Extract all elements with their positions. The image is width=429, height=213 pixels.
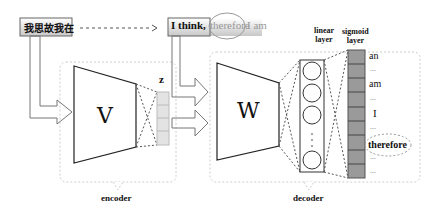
linear-label-line2: layer: [314, 35, 334, 44]
vocab-output-7: ...: [370, 152, 376, 161]
vocab-output-2: am: [369, 78, 381, 89]
output-prefix: I think,: [171, 19, 206, 31]
linear-layer: [300, 60, 324, 172]
vocab-output-4: I: [373, 107, 377, 119]
latent-vector-z: [157, 92, 169, 145]
sigmoid-label-line1: sigmoid: [342, 27, 369, 36]
sigmoid-layer-label: sigmoid layer: [342, 27, 369, 45]
output-suffix: I am: [247, 19, 267, 31]
latent-z-label: z: [159, 73, 164, 85]
linear-layer-label: linear layer: [314, 26, 334, 44]
encoder-label: encoder: [101, 193, 132, 203]
input-text: 我思故我在: [24, 20, 74, 35]
vocab-output-8: ...: [370, 166, 376, 175]
vocab-output-5: ...: [370, 122, 376, 131]
matrix-v: V: [97, 103, 113, 128]
vocab-output-0: an: [369, 50, 378, 61]
matrix-w: W: [237, 98, 260, 123]
decoder-label: decoder: [293, 193, 324, 203]
vocab-output-3: ...: [370, 93, 376, 102]
sigmoid-label-line2: layer: [342, 36, 369, 45]
linear-label-line1: linear: [314, 26, 334, 35]
output-highlighted: therefore: [210, 19, 250, 31]
vocab-output-6: therefore: [368, 139, 407, 150]
sigmoid-layer: [348, 50, 365, 178]
vocab-output-1: ...: [370, 64, 376, 73]
